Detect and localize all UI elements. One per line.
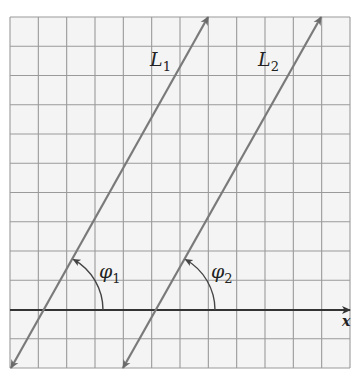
parallel-lines-figure: x L1L2 φ1φ2 <box>0 0 358 389</box>
x-axis-label: x <box>341 313 351 329</box>
diagram-canvas: x L1L2 φ1φ2 <box>0 0 358 389</box>
